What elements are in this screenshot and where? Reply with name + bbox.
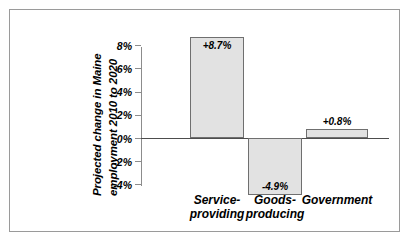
y-axis-title-line-1: Projected change in Maine xyxy=(91,53,103,196)
y-axis-tick-label: 0% xyxy=(117,133,132,145)
chart-figure: Projected change in Maine employment 201… xyxy=(0,0,411,245)
bar-value-label: +0.8% xyxy=(306,116,368,127)
y-axis-tick-label: 4% xyxy=(117,86,132,98)
y-axis-tick: 8% xyxy=(135,45,141,46)
bar[interactable] xyxy=(306,129,368,138)
y-axis-tick: -4% xyxy=(135,184,141,185)
bar-value-label: +8.7% xyxy=(190,40,244,51)
y-axis-tick: 6% xyxy=(135,68,141,69)
x-axis-category-label: Government xyxy=(282,193,392,207)
bar[interactable] xyxy=(190,37,244,138)
y-axis-tick-label: 6% xyxy=(117,63,132,75)
y-axis-tick: -2% xyxy=(135,161,141,162)
y-axis-line xyxy=(141,47,142,186)
y-axis-tick-label: -2% xyxy=(113,156,132,168)
bar-value-label: -4.9% xyxy=(248,181,302,192)
y-axis-tick-label: -4% xyxy=(113,179,132,191)
y-axis-tick-label: 8% xyxy=(117,40,132,52)
y-axis-tick: 4% xyxy=(135,92,141,93)
plot-area: 8%6%4%2%0%-2%-4% +8.7%-4.9%+0.8% Service… xyxy=(141,41,391,191)
y-axis-tick: 2% xyxy=(135,115,141,116)
y-axis-tick: 0% xyxy=(135,138,141,139)
y-axis-title-line-2: employment 2010 to 2020 xyxy=(107,59,119,196)
y-axis-tick-label: 2% xyxy=(117,109,132,121)
